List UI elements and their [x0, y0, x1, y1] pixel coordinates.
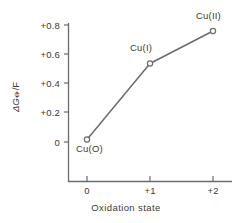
- y-axis-title-standard-symbol: ⦵: [10, 90, 21, 98]
- data-point-marker: [147, 61, 152, 66]
- y-tick-label-0.8: +0.8: [28, 20, 60, 31]
- point-label-cu-1: Cu(I): [130, 42, 152, 53]
- y-tick-label-0.4: +0.4: [28, 78, 60, 89]
- y-axis-title: ΔG⦵/F: [8, 62, 24, 132]
- point-label-cu-0: Cu(O): [76, 143, 103, 154]
- chart-container: +0.8 +0.6 +0.4 +0.2 0 0 +1 +2 ΔG⦵/F Oxid…: [0, 0, 252, 223]
- x-axis-title: Oxidation state: [91, 202, 160, 213]
- y-axis-ticks: [64, 25, 69, 142]
- y-tick-label-0.2: +0.2: [28, 107, 60, 118]
- x-tick-label-plus2: +2: [207, 185, 218, 196]
- y-axis-title-per-f: /F: [10, 82, 21, 90]
- data-point-marker: [84, 137, 89, 142]
- x-tick-label-plus1: +1: [144, 185, 155, 196]
- point-label-cu-2: Cu(II): [196, 10, 221, 21]
- y-tick-label-0.6: +0.6: [28, 49, 60, 60]
- x-tick-label-0: 0: [84, 185, 89, 196]
- y-axis-title-delta: Δ: [10, 106, 21, 112]
- y-tick-label-0: 0: [28, 137, 60, 148]
- x-axis-ticks: [87, 176, 213, 182]
- y-axis-title-g: G: [10, 98, 21, 105]
- y-axis-title-text: ΔG⦵/F: [10, 82, 22, 112]
- data-point-marker: [210, 28, 215, 33]
